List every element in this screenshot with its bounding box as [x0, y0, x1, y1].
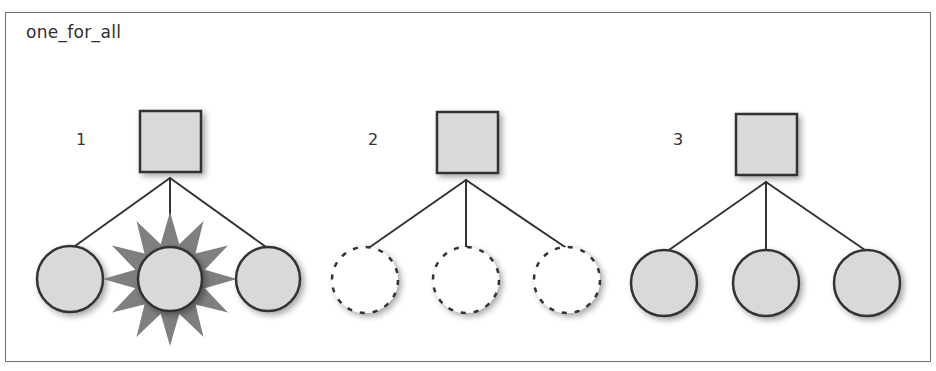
connector-line [75, 178, 170, 246]
child-node-highlighted [138, 247, 202, 311]
child-node [631, 250, 697, 316]
child-node [834, 250, 900, 316]
parent-node-square [140, 111, 201, 172]
child-node-dashed [433, 247, 499, 313]
connector-line [669, 182, 766, 250]
connector-line [370, 180, 466, 247]
parent-node-square [437, 112, 498, 173]
diagram-canvas [0, 0, 936, 371]
connector-line [466, 180, 565, 247]
connector-line [766, 182, 865, 250]
parent-node-square [736, 114, 797, 175]
child-node [733, 250, 799, 316]
child-node [37, 246, 103, 312]
child-node [236, 247, 300, 311]
connector-line [170, 178, 266, 247]
child-node-dashed [332, 247, 398, 313]
child-node-dashed [534, 247, 600, 313]
